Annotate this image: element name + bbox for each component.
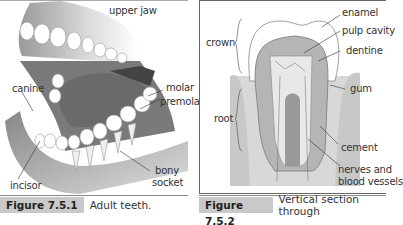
label-upper-jaw: upper jaw (109, 5, 157, 16)
label-crown: crown (206, 37, 235, 48)
label-nerves: nerves and (338, 164, 392, 175)
caption-figure-2: Figure 7.5.2 Vertical section through (199, 194, 386, 216)
label-canine: canine (12, 83, 44, 94)
figure-number: Figure 7.5.2 (199, 197, 273, 213)
label-socket: socket (152, 177, 183, 188)
figure-caption: Vertical section through (279, 193, 386, 217)
label-gum: gum (350, 83, 372, 94)
figure-number: Figure 7.5.1 (0, 197, 84, 213)
label-cement: cement (341, 142, 378, 153)
label-root: root (214, 113, 233, 124)
label-molar: molar (166, 82, 194, 93)
figure-adult-teeth: upper jaw canine molar premolar incisor … (0, 0, 188, 195)
figure-tooth-section: enamel pulp cavity dentine crown gum roo… (199, 0, 386, 194)
caption-figure-1: Figure 7.5.1 Adult teeth. (0, 194, 151, 216)
label-bony: bony (155, 165, 179, 176)
label-incisor: incisor (10, 180, 41, 191)
label-pulp-cavity: pulp cavity (342, 25, 395, 36)
label-dentine: dentine (346, 45, 383, 56)
label-enamel: enamel (342, 7, 378, 18)
label-premolar: premolar (160, 96, 204, 107)
label-blood-vessels: blood vessels (338, 176, 403, 187)
figure-caption: Adult teeth. (90, 199, 152, 211)
